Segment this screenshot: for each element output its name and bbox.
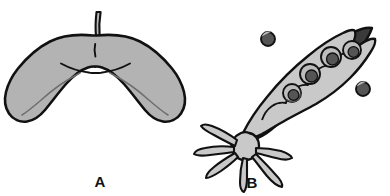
samara-seed-notch [95, 44, 96, 57]
diagram-background [0, 0, 390, 196]
panel-a-label: A [95, 173, 106, 190]
pod-seed [300, 64, 320, 84]
samara-stalk-icon [96, 12, 101, 36]
figure-container: A [0, 0, 390, 196]
seed-dispersal-diagram: A [0, 0, 390, 196]
pod-seed [321, 47, 341, 67]
pod-seed [283, 84, 301, 102]
released-seed [261, 32, 275, 46]
panel-b-label: B [247, 174, 258, 191]
released-seed [356, 82, 370, 96]
pod-seed [343, 41, 361, 59]
